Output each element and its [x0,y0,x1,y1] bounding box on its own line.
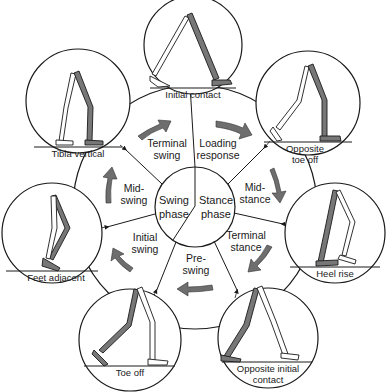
svg-text:Initial contact: Initial contact [165,89,221,100]
event-heel-rise: Heel rise [285,183,385,283]
svg-text:Mid-: Mid- [124,182,145,194]
segment-mid-swing: Mid- swing [121,182,148,206]
svg-text:Swing: Swing [159,194,189,206]
segment-mid-stance: Mid- stance [240,181,271,205]
svg-text:stance: stance [240,193,271,205]
gait-cycle-diagram: Swing phase Stance phase Loading respons… [0,0,389,392]
svg-text:Terminal: Terminal [226,229,266,241]
event-initial-contact: Initial contact [144,0,242,100]
svg-text:Opposite: Opposite [286,143,324,154]
svg-text:toe off: toe off [292,154,319,165]
segment-terminal-swing: Terminal swing [147,137,187,161]
segment-pre-swing: Pre- swing [183,252,210,276]
event-opposite-initial-contact: Opposite initial contact [218,286,318,388]
svg-text:swing: swing [183,264,210,276]
svg-text:Opposite initial: Opposite initial [237,363,299,374]
svg-text:contact: contact [253,374,284,385]
segment-terminal-stance: Terminal stance [226,229,266,253]
arrow-icon [270,168,286,203]
svg-text:Mid-: Mid- [245,181,266,193]
arrow-icon [103,167,117,203]
svg-text:stance: stance [231,241,262,253]
event-feet-adjacent: Feet adjacent [2,183,102,283]
arrow-icon [177,282,213,296]
svg-text:Terminal: Terminal [147,137,187,149]
svg-text:swing: swing [121,194,148,206]
svg-text:phase: phase [159,208,189,220]
event-opposite-toe-off: Opposite toe off [256,51,360,165]
svg-text:Feet adjacent: Feet adjacent [27,272,85,283]
segment-initial-swing: Initial swing [132,231,159,255]
arrow-icon [111,248,133,272]
svg-text:swing: swing [154,149,181,161]
segment-loading-response: Loading response [196,137,239,161]
event-toe-off: Toe off [79,287,181,391]
svg-text:Tibia vertical: Tibia vertical [52,148,105,159]
event-tibia-vertical: Tibia vertical [26,49,130,159]
svg-text:Initial: Initial [133,231,158,243]
svg-text:swing: swing [132,243,159,255]
svg-text:Heel rise: Heel rise [316,268,354,279]
svg-text:Loading: Loading [199,137,237,149]
svg-text:response: response [196,149,239,161]
svg-text:Toe off: Toe off [116,367,145,378]
svg-text:Pre-: Pre- [186,252,206,264]
svg-text:Stance: Stance [199,194,233,206]
svg-text:phase: phase [201,208,231,220]
